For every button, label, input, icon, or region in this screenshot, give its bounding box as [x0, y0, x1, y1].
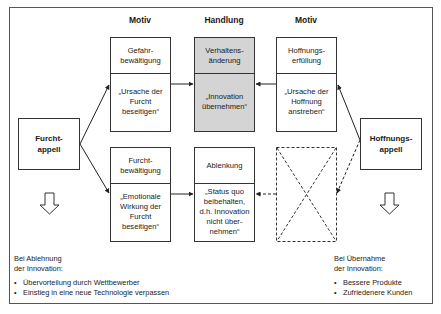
note-rejection-item: Übervorteilung durch Wettbewerber — [14, 278, 214, 288]
arrow-hope-to-hoffnung — [338, 85, 360, 140]
down-arrow-right — [380, 193, 399, 214]
note-adoption: Bei Übernahme der Innovation: Bessere Pr… — [334, 254, 434, 298]
note-adoption-item: Zufriedenere Kunden — [334, 288, 434, 298]
note-adoption-item: Bessere Produkte — [334, 278, 434, 288]
down-arrow-left — [40, 193, 59, 214]
arrow-hope-to-crossed — [337, 140, 360, 193]
note-rejection-intro: Bei Ablehnung der Innovation: — [14, 254, 214, 274]
note-adoption-intro: Bei Übernahme der Innovation: — [334, 254, 434, 274]
arrow-fear-to-gefahr — [80, 85, 109, 144]
note-rejection: Bei Ablehnung der Innovation: Übervortei… — [14, 254, 214, 298]
note-rejection-item: Einstieg in eine neue Technologie verpas… — [14, 288, 214, 298]
arrow-fear-to-furcht — [80, 144, 109, 193]
